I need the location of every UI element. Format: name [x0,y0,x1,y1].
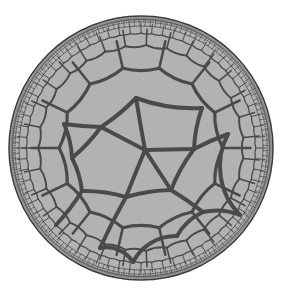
tiling-edge [146,251,147,267]
tiling-edge [146,29,147,45]
hyperbolic-disk-figure [0,0,282,297]
tiling-edge [145,149,194,150]
